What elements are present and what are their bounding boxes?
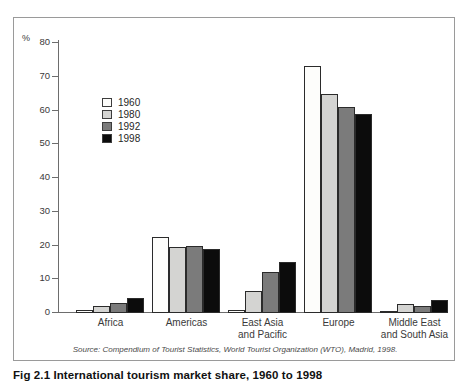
bar <box>414 306 431 313</box>
bar <box>110 303 127 313</box>
bar <box>245 291 262 313</box>
bar-group <box>304 40 373 313</box>
figure-frame: % 80706050403020100 1960198019921998 Afr… <box>13 17 455 361</box>
source-note: Source: Compendium of Tourist Statistics… <box>14 345 456 354</box>
bar <box>203 249 220 313</box>
bar <box>397 304 414 313</box>
bar <box>304 66 321 313</box>
bar <box>338 107 355 313</box>
figure-caption: Fig 2.1 International tourism market sha… <box>13 369 463 381</box>
bar <box>380 311 397 313</box>
bar <box>152 237 169 313</box>
bar-group <box>152 40 221 313</box>
bar <box>321 94 338 313</box>
bar <box>93 306 110 313</box>
bar <box>228 310 245 313</box>
bar <box>186 246 203 313</box>
category-label-line: and South Asia <box>362 329 467 341</box>
bar <box>127 298 144 313</box>
x-axis-category-label: Middle Eastand South Asia <box>362 317 467 340</box>
category-label-line: and Pacific <box>210 329 315 341</box>
category-label-line: Middle East <box>362 317 467 329</box>
bar <box>262 272 279 314</box>
chart-plot-area: % 80706050403020100 1960198019921998 Afr… <box>14 18 456 362</box>
bar-group <box>76 40 145 313</box>
bar <box>431 300 448 314</box>
bar <box>169 247 186 313</box>
bar <box>279 262 296 313</box>
bar <box>76 310 93 313</box>
bar-groups <box>14 18 456 362</box>
bar <box>355 114 372 313</box>
bar-group <box>380 40 449 313</box>
bar-group <box>228 40 297 313</box>
